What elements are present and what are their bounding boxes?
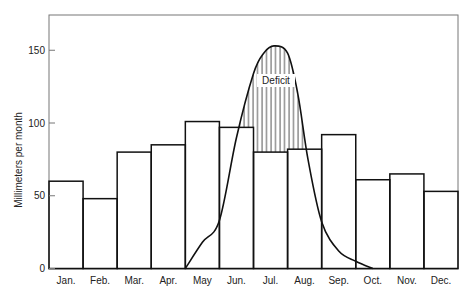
x-tick-label: Jul. [263,275,279,286]
y-tick-label: 100 [28,118,45,129]
bar-nov [390,174,424,269]
chart: 050100150 Jan.Feb.Mar.Apr.MayJun.Jul.Aug… [0,0,473,301]
y-tick-label: 0 [39,263,45,274]
bar-feb [83,199,117,269]
bar-dec [424,191,458,268]
x-tick-label: Apr. [159,275,177,286]
x-tick-label: Aug. [294,275,315,286]
y-axis-ticks: 050100150 [28,45,55,274]
bar-mar [117,152,151,268]
y-tick-label: 50 [34,190,46,201]
bar-oct [356,180,390,269]
x-tick-label: Jan. [57,275,76,286]
x-tick-label: Sep. [328,275,349,286]
bars-group [49,122,458,269]
x-tick-label: Nov. [397,275,417,286]
x-tick-label: Jun. [227,275,246,286]
x-tick-label: Oct. [364,275,382,286]
deficit-label: Deficit [262,75,290,86]
x-tick-label: May [193,275,212,286]
x-tick-label: Feb. [90,275,110,286]
x-tick-label: Dec. [431,275,452,286]
y-tick-label: 150 [28,45,45,56]
x-axis-labels: Jan.Feb.Mar.Apr.MayJun.Jul.Aug.Sep.Oct.N… [57,275,452,286]
bar-apr [151,145,185,269]
bar-jan [49,181,83,268]
x-tick-label: Mar. [124,275,143,286]
y-axis-title: Millimeters per month [13,112,24,208]
